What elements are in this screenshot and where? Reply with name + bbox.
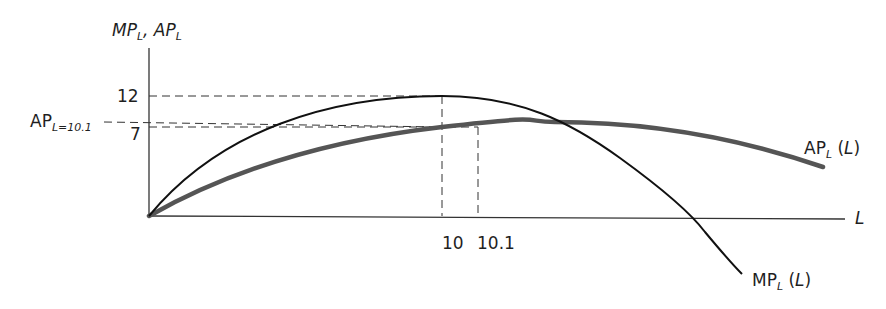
mp-label-open: (	[783, 270, 795, 290]
x-tick-10-1: 10.1	[477, 235, 515, 252]
y-title-mp: MP	[112, 20, 137, 40]
mp-label-main: MP	[752, 270, 777, 290]
y-tick-ap-label: APL=10.1	[30, 113, 92, 130]
y-title-ap: , AP	[143, 20, 176, 40]
x-tick-10: 10	[442, 235, 464, 252]
ap-label-arg: L	[844, 138, 853, 158]
ap-label-open: (	[832, 138, 844, 158]
ap-label-close: )	[854, 138, 861, 158]
y-tick-ap-main: AP	[30, 111, 52, 131]
mp-curve-label: MPL (L)	[752, 272, 811, 289]
mp-label-close: )	[805, 270, 812, 290]
mp-label-arg: L	[795, 270, 804, 290]
y-tick-12: 12	[117, 88, 139, 105]
ap-curve	[149, 120, 823, 216]
y-title-sub2: L	[176, 30, 182, 43]
x-axis-title: L	[855, 210, 864, 227]
chart-canvas	[0, 0, 886, 309]
ap-label-main: AP	[804, 138, 826, 158]
y-axis-title: MPL, APL	[112, 22, 182, 39]
y-tick-7: 7	[130, 126, 141, 143]
y-tick-ap-sub: L=10.1	[52, 121, 92, 134]
x-axis	[149, 216, 845, 219]
ap-curve-label: APL (L)	[804, 140, 860, 157]
